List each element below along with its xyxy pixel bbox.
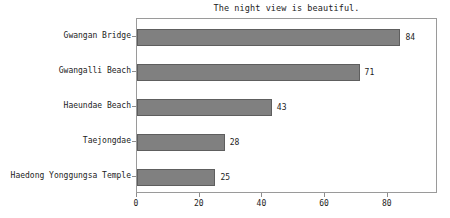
y-axis-label-haeundae-beach: Haeundae Beach [64, 101, 131, 111]
x-axis-tick-mark [261, 193, 262, 197]
bar-haeundae-beach [137, 99, 272, 116]
bar-taejongdae [137, 134, 225, 151]
bar-row: 43 [137, 90, 436, 125]
bar-haedong-yonggungsa-temple [137, 169, 215, 186]
x-axis-tick-label: 80 [382, 199, 392, 209]
y-axis-label-taejongdae: Taejongdae [83, 136, 131, 146]
bar-row: 28 [137, 125, 436, 160]
bar-value-label: 25 [220, 173, 230, 182]
bar-value-label: 43 [277, 103, 287, 112]
x-axis-tick-label: 20 [194, 199, 204, 209]
bar-value-label: 28 [230, 138, 240, 147]
bar-value-label: 71 [365, 68, 375, 77]
y-axis-label-gwangalli-beach: Gwangalli Beach [59, 66, 131, 76]
chart-title: The night view is beautiful. [136, 3, 437, 14]
bar-gwangalli-beach [137, 64, 360, 81]
x-axis-tick-mark [324, 193, 325, 197]
bar-row: 71 [137, 55, 436, 90]
x-axis-tick-label: 0 [134, 199, 139, 209]
x-axis-tick-label: 60 [319, 199, 329, 209]
x-axis-tick-mark [387, 193, 388, 197]
bar-row: 25 [137, 160, 436, 195]
plot-area: 84 71 43 28 25 [136, 18, 437, 193]
x-axis-tick-label: 40 [257, 199, 267, 209]
bar-value-label: 84 [405, 33, 415, 42]
bar-row: 84 [137, 20, 436, 55]
x-axis-tick-mark [136, 193, 137, 197]
y-axis-label-gwangan-bridge: Gwangan Bridge [64, 31, 131, 41]
bar-chart-figure: The night view is beautiful. Gwangan Bri… [0, 0, 450, 218]
bar-gwangan-bridge [137, 29, 400, 46]
x-axis-tick-mark [199, 193, 200, 197]
y-axis-label-haedong-yonggungsa-temple: Haedong Yonggungsa Temple [11, 171, 131, 181]
